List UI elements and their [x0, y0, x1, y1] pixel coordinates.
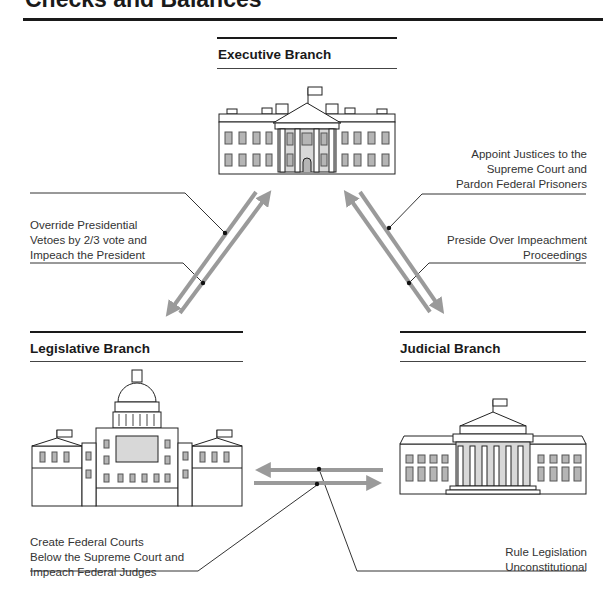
capitol-building-icon	[32, 370, 242, 506]
arrows-executive-legislative	[170, 192, 267, 313]
supreme-court-icon	[400, 399, 586, 494]
diagram-canvas	[0, 0, 613, 601]
arrows-executive-judicial	[348, 192, 440, 312]
arrows-legislative-judicial	[254, 470, 383, 483]
white-house-icon	[219, 87, 395, 174]
leader-lines	[30, 193, 586, 571]
